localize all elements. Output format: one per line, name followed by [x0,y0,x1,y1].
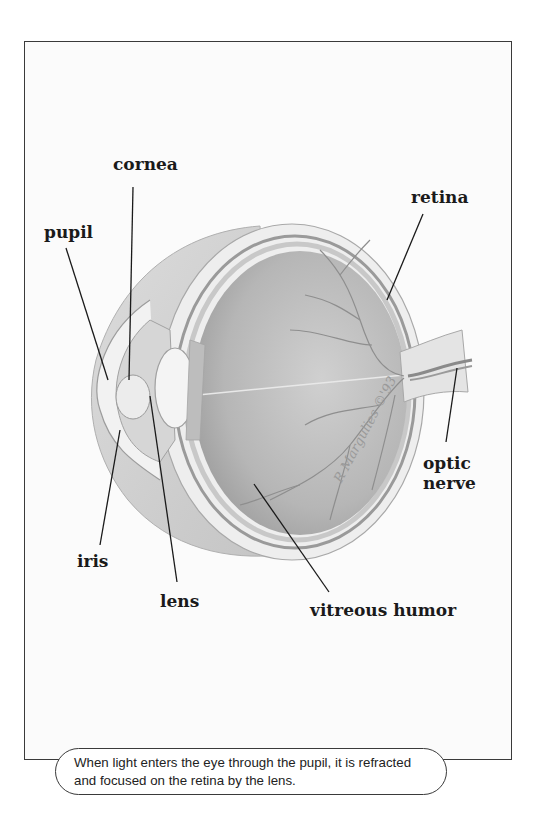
label-retina: retina [411,187,468,207]
eye-illustration [0,0,539,820]
figure-caption: When light enters the eye through the pu… [55,748,447,795]
retina-leader-line [387,214,423,300]
label-optic-nerve-line2: nerve [423,473,476,493]
pupil-leader-line [66,248,108,380]
pupil [116,375,150,419]
label-pupil: pupil [44,222,93,242]
label-cornea: cornea [113,154,178,174]
label-lens: lens [160,591,199,611]
label-vitreous-humor: vitreous humor [310,600,456,620]
label-optic-nerve-line1: optic [423,453,471,473]
label-iris: iris [77,551,108,571]
